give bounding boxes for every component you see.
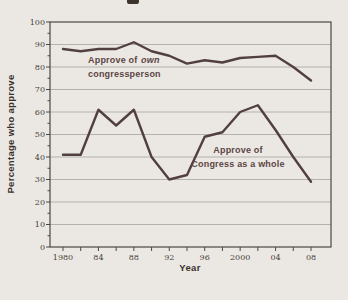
y-tick-label: 10 xyxy=(35,220,45,229)
own-label-part1: Approve of xyxy=(88,55,138,65)
y-tick-label: 0 xyxy=(40,243,45,252)
congress-whole-label-line2: Congress as a whole xyxy=(191,159,284,169)
x-tick-label: 04 xyxy=(270,253,280,262)
x-axis-title: Year xyxy=(179,262,200,273)
own-label-emphasis: own xyxy=(141,55,160,65)
congress-whole-label-line1: Approve of xyxy=(213,145,263,155)
y-tick-label: 70 xyxy=(35,85,45,94)
x-tick-label: 1980 xyxy=(53,253,73,262)
x-tick-label: 2000 xyxy=(230,253,250,262)
x-tick-label: 84 xyxy=(93,253,103,262)
y-tick-label: 60 xyxy=(35,108,45,117)
approve-congress-whole-line xyxy=(63,105,311,182)
y-tick-label: 100 xyxy=(30,18,45,27)
x-tick-labels: 19808488929620000408 xyxy=(53,253,316,262)
y-tick-labels: 0102030405060708090100 xyxy=(30,18,45,252)
x-tick-label: 92 xyxy=(164,253,174,262)
approval-line-chart: 19808488929620000408 0102030405060708090… xyxy=(0,0,348,300)
y-axis-title: Percentage who approve xyxy=(5,74,16,193)
y-tick-label: 40 xyxy=(35,153,45,162)
x-tick-label: 08 xyxy=(306,253,316,262)
y-tick-label: 20 xyxy=(35,198,45,207)
textbook-figure-page: 19808488929620000408 0102030405060708090… xyxy=(0,0,348,300)
x-tick-label: 96 xyxy=(200,253,210,262)
x-ticks xyxy=(63,247,311,251)
y-ticks xyxy=(46,22,50,247)
x-tick-label: 88 xyxy=(129,253,139,262)
y-tick-label: 50 xyxy=(35,130,45,139)
y-tick-label: 90 xyxy=(35,40,45,49)
own-congressperson-label-line1: Approve ofown xyxy=(88,55,160,65)
y-tick-label: 80 xyxy=(35,63,45,72)
y-tick-label: 30 xyxy=(35,175,45,184)
own-congressperson-label-line2: congressperson xyxy=(88,69,161,79)
